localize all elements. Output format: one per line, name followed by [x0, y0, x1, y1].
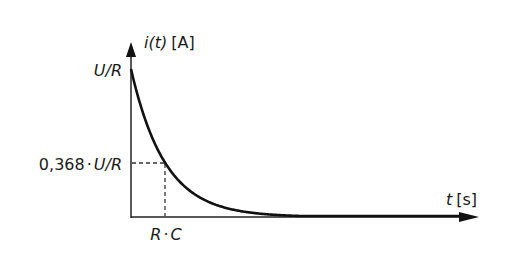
- y-axis-label: i(t)[A]: [144, 33, 195, 52]
- y-max-label: U/R: [94, 61, 122, 80]
- x-axis-label: t[s]: [446, 190, 477, 209]
- y-axis-arrow-icon: [126, 42, 136, 57]
- current-decay-curve: [131, 69, 460, 216]
- rc-discharge-diagram: i(t)[A] U/R 0,368·U/R R·C t[s]: [0, 0, 514, 264]
- x-tau-label: R·C: [150, 225, 182, 244]
- y-tau-label: 0,368·U/R: [39, 155, 122, 174]
- x-axis-arrow-icon: [459, 212, 479, 222]
